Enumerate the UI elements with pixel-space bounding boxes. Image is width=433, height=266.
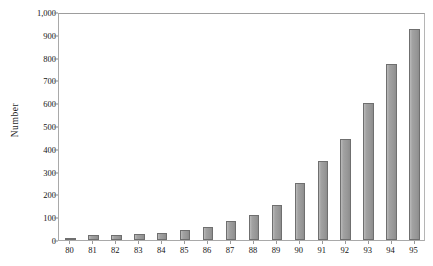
bar [226, 221, 237, 240]
x-axis-tick-labels: 80818283848586878889909192939495 [58, 245, 425, 261]
x-axis-tick-label: 93 [363, 245, 372, 256]
bar [386, 64, 397, 240]
bar [295, 183, 306, 240]
x-axis-tick-mark [322, 241, 323, 244]
x-axis-tick-mark [92, 241, 93, 244]
x-axis-tick-mark [391, 241, 392, 244]
y-axis-tick-label: 900 [20, 31, 56, 40]
bar-chart: Number 01002003004005006007008009001,000… [0, 0, 433, 266]
y-axis-tick-mark [54, 149, 58, 150]
bar [272, 205, 283, 240]
x-axis-tick-mark [69, 241, 70, 244]
y-axis-tick-mark [54, 35, 58, 36]
bar [249, 215, 260, 240]
x-axis-tick-mark [253, 241, 254, 244]
bar [180, 230, 191, 240]
x-axis-tick-mark [207, 241, 208, 244]
bar [318, 161, 329, 240]
y-axis-tick-mark [54, 13, 58, 14]
x-axis-tick-label: 91 [318, 245, 327, 256]
y-axis-tick-label: 200 [20, 191, 56, 200]
x-axis-tick-label: 81 [88, 245, 97, 256]
x-axis-tick-label: 87 [226, 245, 235, 256]
y-axis-tick-mark [54, 218, 58, 219]
y-axis-tick-mark [54, 58, 58, 59]
x-axis-tick-mark [414, 241, 415, 244]
bar [88, 235, 99, 240]
x-axis-tick-label: 83 [134, 245, 143, 256]
y-axis-tick-mark [54, 172, 58, 173]
y-axis-tick-label: 500 [20, 123, 56, 132]
x-axis-tick-label: 86 [203, 245, 212, 256]
x-axis-tick-label: 94 [386, 245, 395, 256]
y-axis-tick-mark [54, 241, 58, 242]
y-axis-tick-label: 0 [20, 237, 56, 246]
y-axis-tick-mark [54, 127, 58, 128]
y-axis-title-text: Number [10, 103, 20, 138]
x-axis-tick-mark [161, 241, 162, 244]
bar [111, 235, 122, 240]
y-axis-tick-mark [54, 104, 58, 105]
y-axis-tick-label: 100 [20, 214, 56, 223]
y-axis-tick-label: 700 [20, 77, 56, 86]
x-axis-tick-label: 92 [340, 245, 349, 256]
x-axis-tick-label: 95 [409, 245, 418, 256]
x-axis-tick-mark [184, 241, 185, 244]
y-axis-tick-mark [54, 195, 58, 196]
x-axis-tick-mark [345, 241, 346, 244]
x-axis-tick-label: 88 [249, 245, 258, 256]
y-axis-tick-label: 600 [20, 100, 56, 109]
bar [157, 233, 168, 240]
x-axis-tick-mark [276, 241, 277, 244]
x-axis-tick-mark [368, 241, 369, 244]
x-axis-tick-label: 90 [295, 245, 304, 256]
y-axis-tick-label: 800 [20, 54, 56, 63]
x-axis-tick-label: 84 [157, 245, 166, 256]
x-axis-tick-label: 82 [111, 245, 120, 256]
x-axis-tick-mark [299, 241, 300, 244]
bar [363, 103, 374, 240]
x-axis-tick-mark [138, 241, 139, 244]
y-axis-tick-labels: 01002003004005006007008009001,000 [20, 0, 56, 246]
bar [203, 227, 214, 240]
x-axis-tick-label: 89 [272, 245, 281, 256]
bar [409, 29, 420, 240]
y-axis-tick-label: 400 [20, 145, 56, 154]
plot-area [58, 13, 425, 241]
x-axis-tick-label: 80 [65, 245, 74, 256]
y-axis-tick-mark [54, 81, 58, 82]
y-axis-tick-label: 1,000 [20, 9, 56, 18]
bars-layer [59, 14, 424, 240]
x-axis-tick-label: 85 [180, 245, 189, 256]
bar [340, 139, 351, 240]
bar [65, 238, 76, 240]
x-axis-tick-mark [115, 241, 116, 244]
bar [134, 234, 145, 240]
y-axis-tick-label: 300 [20, 168, 56, 177]
x-axis-tick-mark [230, 241, 231, 244]
